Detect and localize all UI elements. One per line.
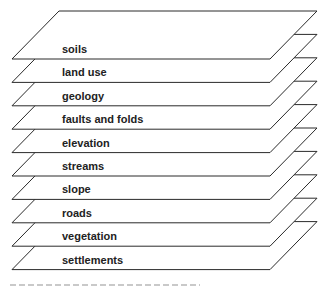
layer-label: faults and folds: [62, 113, 143, 125]
layer-label: soils: [62, 43, 87, 55]
layer-stack-diagram: settlementsvegetationroadsslopestreamsel…: [0, 0, 329, 286]
layer-label: slope: [62, 183, 91, 195]
layer-label: elevation: [62, 137, 110, 149]
layer-label: geology: [62, 90, 105, 102]
layer-label: land use: [62, 66, 107, 78]
layer-label: vegetation: [62, 230, 117, 242]
layer-label: settlements: [62, 254, 123, 266]
layer-label: streams: [62, 160, 104, 172]
layer-label: roads: [62, 207, 92, 219]
layer-soils: soils: [12, 11, 317, 59]
figure-caption-clipped: [10, 282, 200, 286]
layer-plane: [12, 11, 317, 59]
